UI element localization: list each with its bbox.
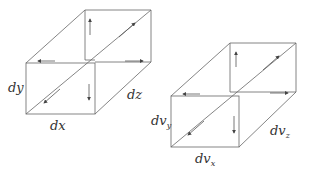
right-front-face [171, 96, 239, 147]
label-dvz: dvz [270, 124, 290, 140]
label-dx: dx [50, 119, 66, 132]
label-dz: dz [127, 88, 142, 101]
boxes-drawing [0, 0, 312, 173]
arrow-diag-up-icon [263, 56, 279, 70]
left-front-face [26, 63, 95, 114]
arrow-diag-up-icon [119, 23, 135, 37]
label-dvy: dvy [151, 114, 171, 130]
diagram-canvas: dy dz dx dvy dvz dvx [0, 0, 312, 173]
arrow-diag-down-icon [44, 89, 60, 103]
label-dy: dy [8, 81, 24, 94]
label-dvx: dvx [195, 152, 215, 168]
arrow-diag-down-icon [188, 121, 204, 135]
